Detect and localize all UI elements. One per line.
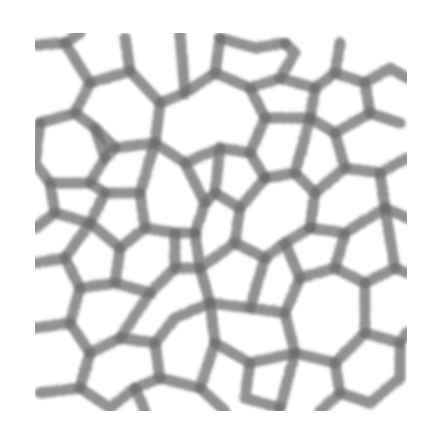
cellular-texture <box>35 33 407 411</box>
